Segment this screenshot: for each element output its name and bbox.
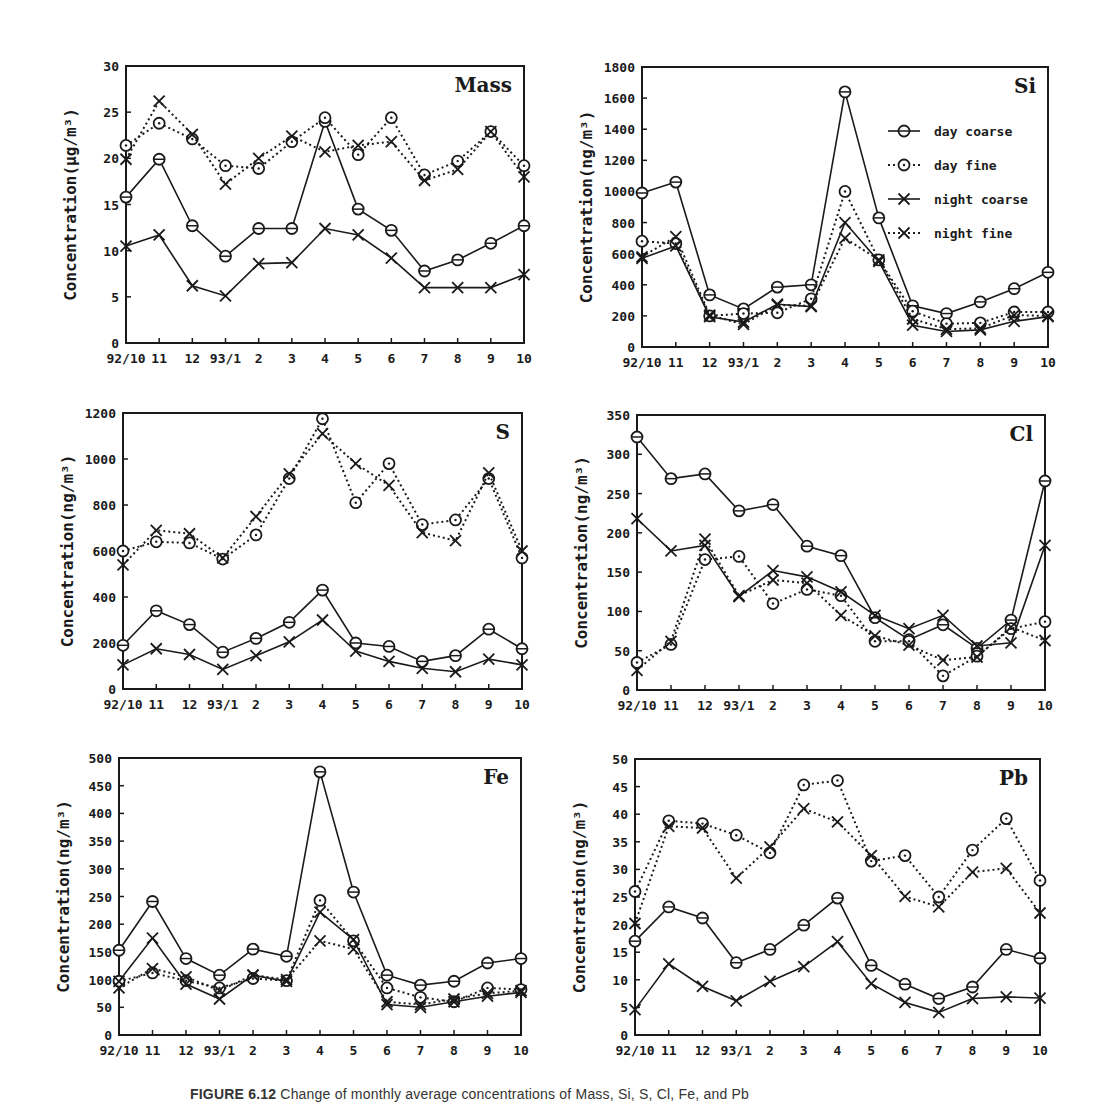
x-tick-label: 9 (485, 697, 493, 712)
x-tick-label: 9 (484, 1043, 492, 1058)
panel-title: Cl (1009, 422, 1033, 446)
y-tick-label: 200 (93, 636, 117, 651)
plot-frame (123, 413, 522, 689)
x-tick-label: 93/1 (210, 351, 241, 366)
x-tick-label: 93/1 (728, 355, 759, 370)
x-tick-label: 7 (935, 1043, 943, 1058)
legend-item-label: day fine (934, 158, 997, 173)
x-tick-label: 7 (417, 1043, 425, 1058)
x-tick-label: 4 (841, 355, 849, 370)
x-tick-label: 12 (695, 1043, 711, 1058)
caption-text: Change of monthly average concentrations… (280, 1086, 749, 1102)
y-tick-label: 0 (111, 336, 119, 351)
y-tick-label: 200 (89, 917, 113, 932)
series-day-fine (121, 112, 530, 180)
x-tick-label: 8 (976, 355, 984, 370)
x-tick-label: 92/10 (99, 1043, 138, 1058)
x-tick-label: 9 (487, 351, 495, 366)
x-tick-label: 92/10 (106, 351, 145, 366)
y-axis-label: Concentration(ng/m³) (570, 801, 589, 994)
x-tick-label: 9 (1002, 1043, 1010, 1058)
y-tick-label: 1200 (604, 153, 635, 168)
y-tick-label: 1600 (604, 91, 635, 106)
y-tick-label: 25 (103, 105, 119, 120)
y-tick-label: 5 (620, 1000, 628, 1015)
y-tick-label: 150 (607, 565, 631, 580)
x-tick-label: 12 (182, 697, 198, 712)
y-tick-label: 350 (607, 408, 631, 423)
y-tick-label: 0 (622, 683, 630, 698)
panel-s: 02004006008001000120092/10111293/1234567… (58, 406, 530, 712)
x-tick-label: 6 (387, 351, 395, 366)
y-tick-label: 5 (111, 290, 119, 305)
x-tick-label: 8 (973, 698, 981, 713)
panel-mass: 05101520253092/10111293/12345678910Conce… (61, 59, 532, 366)
y-tick-label: 400 (89, 806, 113, 821)
x-tick-label: 12 (697, 698, 713, 713)
x-tick-label: 3 (285, 697, 293, 712)
series-day-coarse (121, 116, 530, 277)
x-tick-label: 7 (421, 351, 429, 366)
y-tick-label: 800 (612, 216, 636, 231)
x-tick-label: 2 (255, 351, 263, 366)
y-tick-label: 35 (612, 835, 628, 850)
legend: day coarseday finenight coarsenight fine (888, 124, 1028, 241)
series-night-coarse (118, 615, 528, 678)
x-tick-label: 11 (661, 1043, 677, 1058)
x-tick-label: 3 (800, 1043, 808, 1058)
series-night-fine (637, 231, 1054, 335)
y-tick-label: 30 (612, 862, 628, 877)
x-tick-label: 4 (319, 697, 327, 712)
x-tick-label: 10 (514, 697, 530, 712)
x-tick-label: 11 (145, 1043, 161, 1058)
y-tick-label: 50 (614, 644, 630, 659)
y-tick-label: 1000 (604, 184, 635, 199)
y-tick-label: 1200 (85, 406, 116, 421)
chart-grid: 05101520253092/10111293/12345678910Conce… (0, 0, 1099, 1102)
x-tick-label: 92/10 (103, 697, 142, 712)
x-tick-label: 8 (452, 697, 460, 712)
y-tick-label: 0 (108, 682, 116, 697)
x-tick-label: 6 (383, 1043, 391, 1058)
x-tick-label: 10 (516, 351, 532, 366)
y-tick-label: 150 (89, 945, 113, 960)
x-tick-label: 9 (1010, 355, 1018, 370)
y-tick-label: 100 (89, 973, 113, 988)
series-day-fine (630, 775, 1046, 902)
y-axis-label: Concentration(ng/m³) (577, 111, 596, 304)
y-tick-label: 20 (103, 151, 119, 166)
figure-caption: FIGURE 6.12 Change of monthly average co… (190, 1086, 749, 1102)
series-day-coarse (114, 766, 527, 990)
x-tick-label: 92/10 (622, 355, 661, 370)
y-tick-label: 400 (612, 278, 636, 293)
panel-title: Si (1014, 74, 1036, 98)
x-tick-label: 5 (354, 351, 362, 366)
y-tick-label: 300 (607, 447, 631, 462)
y-tick-label: 450 (89, 779, 113, 794)
y-tick-label: 250 (607, 487, 631, 502)
y-tick-label: 1000 (85, 452, 116, 467)
series-day-coarse (118, 585, 528, 667)
x-tick-label: 10 (1040, 355, 1056, 370)
x-tick-label: 8 (450, 1043, 458, 1058)
x-tick-label: 7 (943, 355, 951, 370)
panel-title: Pb (999, 766, 1028, 790)
x-tick-label: 93/1 (204, 1043, 235, 1058)
y-tick-label: 10 (103, 244, 119, 259)
x-tick-label: 93/1 (721, 1043, 752, 1058)
y-tick-label: 300 (89, 862, 113, 877)
panel-pb: 0510152025303540455092/10111293/12345678… (570, 752, 1048, 1058)
series-night-fine (121, 96, 530, 190)
x-tick-label: 5 (875, 355, 883, 370)
x-tick-label: 4 (837, 698, 845, 713)
series-day-coarse (630, 893, 1046, 1004)
x-tick-label: 7 (418, 697, 426, 712)
x-tick-label: 6 (909, 355, 917, 370)
panel-fe: 05010015020025030035040045050092/1011129… (54, 751, 529, 1058)
x-tick-label: 12 (185, 351, 201, 366)
y-tick-label: 600 (612, 247, 636, 262)
legend-item-label: night fine (934, 226, 1012, 241)
panel-si: 02004006008001000120014001600180092/1011… (577, 60, 1056, 370)
y-tick-label: 800 (93, 498, 117, 513)
x-tick-label: 8 (969, 1043, 977, 1058)
